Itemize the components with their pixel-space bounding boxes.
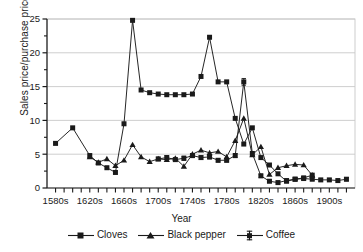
legend-item-coffee[interactable]: Coffee bbox=[237, 229, 295, 241]
svg-text:0: 0 bbox=[35, 182, 40, 193]
svg-text:1700s: 1700s bbox=[145, 195, 171, 206]
svg-text:25: 25 bbox=[29, 13, 40, 24]
chart-legend: Cloves Black pepper Coffee bbox=[0, 229, 363, 241]
legend-label-cloves: Cloves bbox=[97, 229, 128, 241]
svg-text:15: 15 bbox=[29, 81, 40, 92]
legend-marker-filled-square bbox=[68, 230, 94, 241]
svg-text:5: 5 bbox=[35, 149, 40, 160]
svg-text:1660s: 1660s bbox=[111, 195, 137, 206]
svg-text:10: 10 bbox=[29, 115, 40, 126]
svg-text:1780s: 1780s bbox=[214, 195, 240, 206]
svg-text:20: 20 bbox=[29, 47, 40, 58]
series-black-pepper bbox=[87, 115, 316, 177]
chart-container: Sales price/purchase price 0510152025158… bbox=[0, 0, 363, 252]
legend-label-black-pepper: Black pepper bbox=[167, 229, 225, 241]
svg-text:1820s: 1820s bbox=[248, 195, 274, 206]
legend-item-black-pepper[interactable]: Black pepper bbox=[138, 229, 225, 241]
svg-text:1900s: 1900s bbox=[316, 195, 342, 206]
legend-marker-square-with-error-bars bbox=[237, 230, 263, 241]
legend-label-coffee: Coffee bbox=[266, 229, 295, 241]
svg-text:1740s: 1740s bbox=[179, 195, 205, 206]
svg-text:1580s: 1580s bbox=[43, 195, 69, 206]
svg-text:1620s: 1620s bbox=[77, 195, 103, 206]
svg-text:1860s: 1860s bbox=[282, 195, 308, 206]
x-axis-title: Year bbox=[0, 213, 363, 224]
legend-marker-filled-triangle bbox=[138, 230, 164, 241]
legend-item-cloves[interactable]: Cloves bbox=[68, 229, 128, 241]
